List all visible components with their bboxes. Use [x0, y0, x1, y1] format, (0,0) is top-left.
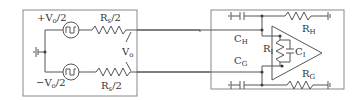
bottom-resistor-label: Rs/2 — [101, 80, 122, 93]
resistor-top-icon — [92, 26, 126, 34]
top-source-label: +Vo/2 — [37, 12, 67, 25]
capacitor-top-icon — [240, 12, 244, 20]
resistor-rg-icon — [287, 81, 313, 89]
top-resistor-label: Rs/2 — [100, 12, 121, 25]
capacitor-bottom-icon — [240, 81, 244, 89]
ground-right-bottom-icon — [328, 81, 330, 89]
ground-right-top-icon — [328, 12, 330, 20]
output-voltage-label: Vo — [121, 46, 133, 59]
ground-icon — [34, 47, 45, 57]
resistor-rh-icon — [285, 12, 311, 20]
rg-label: RG — [302, 68, 316, 81]
cg-label: CG — [234, 55, 248, 68]
ci-label: CI — [295, 46, 306, 59]
ground-left-bottom-icon — [229, 81, 231, 89]
square-wave-source-top-icon — [63, 22, 79, 38]
rh-label: RH — [302, 23, 316, 36]
ch-label: CH — [234, 33, 248, 46]
ground-left-top-icon — [229, 12, 231, 20]
capacitor-ci-icon — [286, 49, 294, 53]
resistor-bottom-icon — [96, 68, 130, 76]
circuit-diagram: +Vo/2 −Vo/2 Rs/2 Rs/2 Vo CH CG RI CI RH … — [0, 0, 359, 101]
bottom-source-label: −Vo/2 — [36, 77, 66, 90]
